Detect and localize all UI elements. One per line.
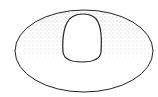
ellipse-dome-drawing — [0, 0, 158, 97]
illustration: Stippled line drawing of a flat ellipse … — [0, 0, 158, 97]
inner-dome — [63, 14, 102, 62]
